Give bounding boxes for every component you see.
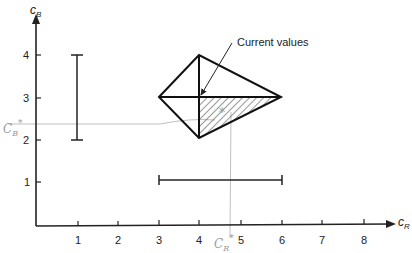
current-values-label: Current values bbox=[237, 36, 309, 48]
svg-text:6: 6 bbox=[279, 234, 285, 246]
y-tick-labels: 4 3 2 1 bbox=[23, 49, 30, 188]
svg-text:7: 7 bbox=[319, 234, 325, 246]
y-axis bbox=[32, 14, 40, 226]
y-axis-label: cB bbox=[30, 3, 42, 19]
svg-text:2: 2 bbox=[115, 234, 121, 246]
cr-star-label: CR* bbox=[214, 233, 234, 253]
cr-star-guide-line bbox=[230, 112, 231, 238]
svg-text:5: 5 bbox=[238, 234, 244, 246]
vertical-range-bar bbox=[71, 55, 83, 140]
x-axis-label: cR bbox=[398, 215, 410, 231]
star-mark: * bbox=[219, 106, 225, 120]
svg-text:1: 1 bbox=[75, 234, 81, 246]
svg-text:4: 4 bbox=[196, 234, 202, 246]
x-axis-arrow-icon bbox=[386, 220, 396, 228]
diagram-canvas: 1 2 3 4 5 6 7 8 4 3 2 1 cB cR bbox=[0, 0, 412, 253]
x-axis bbox=[36, 220, 396, 228]
horizontal-range-bar bbox=[159, 175, 282, 185]
svg-text:1: 1 bbox=[24, 176, 30, 188]
svg-text:8: 8 bbox=[361, 234, 367, 246]
cb-star-label: CB* bbox=[3, 118, 23, 138]
svg-text:3: 3 bbox=[156, 234, 162, 246]
svg-text:2: 2 bbox=[23, 134, 29, 146]
svg-text:4: 4 bbox=[23, 49, 29, 61]
svg-text:3: 3 bbox=[23, 92, 29, 104]
